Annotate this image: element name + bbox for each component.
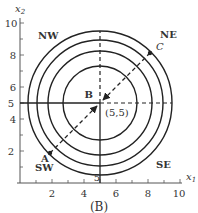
x-tick-2: 2 (49, 188, 55, 199)
y-tick-10: 10 (5, 18, 18, 29)
x-tick-8: 8 (145, 188, 151, 199)
center-coordinate-label: (5,5) (105, 107, 129, 118)
x-center-tick-5: 5 (94, 172, 100, 183)
y-tick-4: 4 (10, 114, 16, 125)
x-axis-ticks (36, 179, 180, 183)
point-c-label: C (156, 41, 164, 52)
y-tick-5: 5 (8, 98, 14, 109)
x-tick-10: 10 (173, 188, 186, 199)
y-tick-2: 2 (8, 146, 14, 157)
figure-caption: (B) (90, 200, 108, 213)
region-se-label: SE (156, 159, 171, 170)
x-axis-label: x1 (186, 171, 196, 184)
region-sw-label: SW (35, 162, 54, 173)
x-tick-4: 4 (81, 188, 87, 199)
point-b-label: B (85, 89, 93, 100)
region-ne-label: NE (160, 29, 177, 40)
y-axis-label: x2 (15, 3, 26, 16)
y-tick-6: 6 (10, 82, 16, 93)
contour-diagram: 2 4 5 6 8 10 2 4 6 8 10 5 x2 x1 A B C (5… (0, 0, 198, 213)
point-c-marker (148, 51, 152, 55)
y-axis-ticks (20, 23, 24, 167)
x-tick-6: 6 (113, 188, 119, 199)
y-tick-8: 8 (10, 50, 16, 61)
region-nw-label: NW (38, 30, 59, 41)
